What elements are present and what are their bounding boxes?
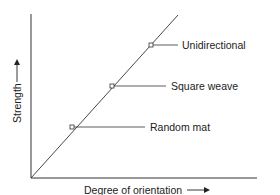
marker-unidirectional	[149, 43, 153, 47]
marker-square-weave	[110, 84, 114, 88]
label-square-weave: Square weave	[171, 80, 238, 92]
strength-trend-line	[31, 15, 178, 178]
label-unidirectional: Unidirectional	[182, 39, 246, 51]
y-arrow-head-icon	[14, 59, 20, 65]
marker-random-mat	[70, 125, 74, 129]
x-arrow-head-icon	[204, 187, 210, 193]
label-random-mat: Random mat	[150, 121, 210, 133]
x-axis-label: Degree of orientation	[84, 184, 182, 195]
y-axis-label: Strength	[11, 83, 23, 123]
strength-orientation-chart: Unidirectional Square weave Random mat D…	[0, 0, 280, 195]
